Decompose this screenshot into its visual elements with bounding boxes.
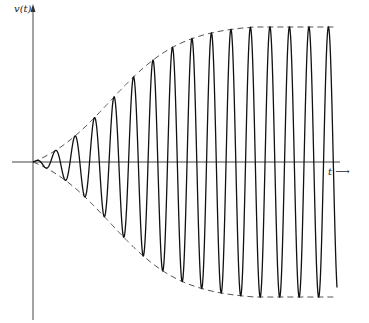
y-axis-label: v(t): [14, 3, 31, 14]
x-axis-label: t ⟶: [328, 166, 350, 177]
chart-plot-area: [0, 0, 369, 323]
